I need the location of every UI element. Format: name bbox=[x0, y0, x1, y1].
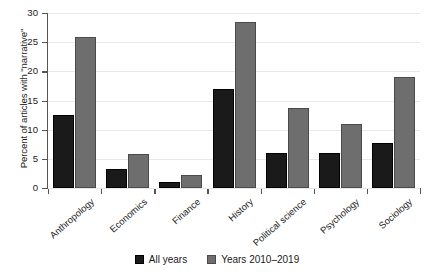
bar bbox=[394, 77, 415, 188]
y-tick-label: 0 bbox=[12, 182, 38, 193]
x-tick-mark bbox=[314, 189, 315, 194]
legend-swatch bbox=[135, 255, 144, 264]
bar-chart-figure: Percent of articles with "narrative" 051… bbox=[0, 0, 434, 280]
x-category-label: Sociology bbox=[377, 196, 415, 231]
x-category-label: Economics bbox=[107, 196, 149, 234]
bar bbox=[372, 143, 393, 188]
x-tick-mark bbox=[420, 189, 421, 194]
bar bbox=[341, 124, 362, 188]
legend-swatch bbox=[207, 255, 216, 264]
gridline bbox=[48, 13, 420, 14]
legend-label: All years bbox=[149, 254, 187, 265]
x-tick-mark bbox=[101, 189, 102, 194]
x-tick-mark bbox=[48, 189, 49, 194]
y-tick-mark bbox=[42, 13, 47, 14]
y-tick-label: 25 bbox=[12, 36, 38, 47]
bar bbox=[53, 115, 74, 188]
y-tick-mark bbox=[42, 42, 47, 43]
legend-entry: All years bbox=[135, 254, 187, 265]
y-tick-mark bbox=[42, 71, 47, 72]
y-tick-mark bbox=[42, 159, 47, 160]
legend-entry: Years 2010–2019 bbox=[207, 254, 299, 265]
x-category-label: Psychology bbox=[318, 196, 361, 236]
x-category-label: History bbox=[226, 196, 255, 223]
chart-legend: All yearsYears 2010–2019 bbox=[0, 254, 434, 265]
x-category-label: Anthropology bbox=[47, 196, 96, 241]
y-tick-label: 10 bbox=[12, 124, 38, 135]
bar bbox=[319, 153, 340, 188]
y-tick-mark bbox=[42, 101, 47, 102]
plot-area bbox=[48, 13, 420, 188]
y-tick-mark bbox=[42, 188, 47, 189]
x-tick-mark bbox=[367, 189, 368, 194]
bar bbox=[181, 175, 202, 188]
legend-label: Years 2010–2019 bbox=[221, 254, 299, 265]
bar bbox=[106, 169, 127, 188]
x-tick-mark bbox=[261, 189, 262, 194]
bar bbox=[128, 154, 149, 188]
bar bbox=[75, 37, 96, 188]
bar bbox=[159, 182, 180, 188]
y-tick-label: 15 bbox=[12, 95, 38, 106]
bar bbox=[213, 89, 234, 188]
y-tick-label: 20 bbox=[12, 65, 38, 76]
y-tick-mark bbox=[42, 130, 47, 131]
y-tick-label: 30 bbox=[12, 7, 38, 18]
y-tick-label: 5 bbox=[12, 153, 38, 164]
bar bbox=[266, 153, 287, 188]
x-tick-mark bbox=[207, 189, 208, 194]
gridline bbox=[48, 188, 420, 189]
x-category-label: Finance bbox=[170, 196, 202, 226]
bar bbox=[235, 22, 256, 188]
x-category-label: Political science bbox=[251, 196, 309, 248]
x-tick-mark bbox=[154, 189, 155, 194]
bar bbox=[288, 108, 309, 188]
